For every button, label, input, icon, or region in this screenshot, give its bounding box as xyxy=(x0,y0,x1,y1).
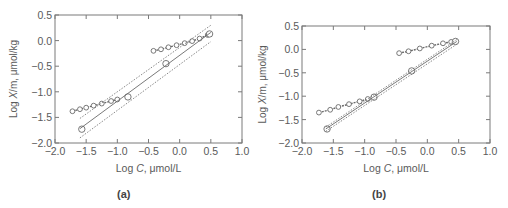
data-point-marker xyxy=(166,45,171,50)
x-axis-label: Log C, μmol/L xyxy=(363,162,429,174)
data-point-marker xyxy=(441,41,446,46)
caption-a: (a) xyxy=(117,188,130,200)
chart-panel-a: −2.0−1.5−1.0−0.50.00.51.00.50.0−0.5−1.0−… xyxy=(0,0,254,208)
fit-line xyxy=(326,41,457,129)
x-tick-label: −1.0 xyxy=(354,145,375,157)
x-tick-label: 0.0 xyxy=(172,145,187,157)
plot-frame xyxy=(55,15,242,143)
confidence-band-line xyxy=(80,25,211,118)
y-tick-label: −1.0 xyxy=(31,86,52,98)
x-tick-label: −1.5 xyxy=(323,145,344,157)
y-tick-label: 0.0 xyxy=(37,35,52,47)
y-tick-label: 0.0 xyxy=(284,43,299,55)
chart-panel-b: −2.0−1.5−1.0−0.50.00.51.00.50.0−0.5−1.0−… xyxy=(254,0,508,208)
data-point-marker xyxy=(417,46,422,51)
data-point-marker xyxy=(109,99,114,104)
data-point-marker xyxy=(429,43,434,48)
y-axis-label: Log X/m, μmol/kg xyxy=(257,45,268,123)
chart-a-plot: −2.0−1.5−1.0−0.50.00.51.00.50.0−0.5−1.0−… xyxy=(0,0,254,208)
y-tick-label: −0.5 xyxy=(278,67,299,79)
y-tick-label: −1.0 xyxy=(278,90,299,102)
x-tick-label: 0.0 xyxy=(420,145,435,157)
fit-line xyxy=(80,32,211,128)
y-tick-label: 0.5 xyxy=(284,20,299,32)
data-point-marker xyxy=(78,107,83,112)
chart-b-plot: −2.0−1.5−1.0−0.50.00.51.00.50.0−0.5−1.0−… xyxy=(254,0,508,208)
y-tick-label: −2.0 xyxy=(31,137,52,149)
data-point-marker xyxy=(397,51,402,56)
data-point-marker xyxy=(328,107,333,112)
data-point-marker xyxy=(406,49,411,54)
x-tick-label: 0.5 xyxy=(451,145,466,157)
x-tick-label: −1.0 xyxy=(107,145,128,157)
confidence-band-line xyxy=(326,44,457,131)
data-point-marker xyxy=(336,105,341,110)
confidence-band-line xyxy=(326,40,457,128)
data-point-marker xyxy=(347,102,352,107)
y-axis-label: Log X/m, μmol/kg xyxy=(8,40,19,118)
data-point-marker xyxy=(174,43,179,48)
x-axis-label: Log C, μmol/L xyxy=(116,162,182,174)
y-tick-label: 0.5 xyxy=(37,9,52,21)
data-point-marker xyxy=(317,110,322,115)
y-tick-label: −2.0 xyxy=(278,137,299,149)
x-tick-label: −0.5 xyxy=(138,145,159,157)
data-point-marker xyxy=(84,105,89,110)
data-point-marker xyxy=(70,109,75,114)
confidence-band-line xyxy=(80,42,211,138)
data-point-circle xyxy=(206,31,212,37)
caption-b: (b) xyxy=(372,188,386,200)
data-point-marker xyxy=(99,101,104,106)
x-tick-label: −1.5 xyxy=(76,145,97,157)
data-point-marker xyxy=(151,48,156,53)
data-point-marker xyxy=(159,47,164,52)
x-tick-label: −0.5 xyxy=(386,145,407,157)
x-tick-label: 0.5 xyxy=(204,145,219,157)
x-tick-label: 1.0 xyxy=(235,145,250,157)
y-tick-label: −1.5 xyxy=(31,111,52,123)
x-tick-label: 1.0 xyxy=(483,145,498,157)
y-tick-label: −0.5 xyxy=(31,60,52,72)
y-tick-label: −1.5 xyxy=(278,114,299,126)
